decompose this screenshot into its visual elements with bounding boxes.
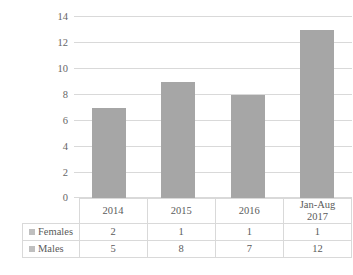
- column-chart-with-data-table: 14 12 10 8 6 4 2 0: [0, 0, 353, 275]
- legend-swatch-icon: [29, 246, 35, 252]
- table-row-categories: 2014 2015 2016 Jan-Aug 2017: [23, 199, 352, 224]
- cell-females-2014: 2: [79, 224, 147, 241]
- y-axis: 14 12 10 8 6 4 2 0: [38, 16, 68, 198]
- cell-males-2015: 8: [147, 241, 215, 258]
- bar-slot: [144, 16, 214, 198]
- table-corner-cell: [23, 199, 80, 224]
- y-tick-label: 8: [38, 89, 68, 100]
- table-row: Females 2 1 1 1: [23, 224, 352, 241]
- legend-item-females[interactable]: Females: [23, 224, 80, 241]
- data-table: 2014 2015 2016 Jan-Aug 2017 Females: [22, 198, 352, 258]
- category-header-jan-aug-2017: Jan-Aug 2017: [283, 199, 351, 224]
- category-label: 2015: [171, 205, 192, 216]
- category-header-2014: 2014: [79, 199, 147, 224]
- y-tick-label: 12: [38, 37, 68, 48]
- legend-label: Males: [38, 243, 64, 255]
- bar-slot: [283, 16, 353, 198]
- cell-males-2016: 7: [215, 241, 283, 258]
- cell-males-jan-aug-2017: 12: [283, 241, 351, 258]
- category-label-line2: 2017: [284, 211, 351, 223]
- bars-group: [74, 16, 352, 198]
- bar-total[interactable]: [300, 30, 334, 198]
- cell-females-2016: 1: [215, 224, 283, 241]
- y-tick-label: 2: [38, 167, 68, 178]
- y-tick-label: 4: [38, 141, 68, 152]
- category-header-2015: 2015: [147, 199, 215, 224]
- category-header-2016: 2016: [215, 199, 283, 224]
- cell-females-2015: 1: [147, 224, 215, 241]
- bar-total[interactable]: [161, 82, 195, 198]
- legend-label: Females: [38, 226, 73, 238]
- cell-females-jan-aug-2017: 1: [283, 224, 351, 241]
- cell-males-2014: 5: [79, 241, 147, 258]
- y-tick-label: 6: [38, 115, 68, 126]
- bar-total[interactable]: [231, 95, 265, 198]
- bar-slot: [213, 16, 283, 198]
- y-tick-label: 14: [38, 11, 68, 22]
- plot-area: 14 12 10 8 6 4 2 0: [0, 0, 353, 200]
- category-label: 2016: [239, 205, 260, 216]
- table-row: Males 5 8 7 12: [23, 241, 352, 258]
- bar-slot: [74, 16, 144, 198]
- legend-swatch-icon: [29, 229, 35, 235]
- bar-total[interactable]: [92, 108, 126, 199]
- y-tick-label: 10: [38, 63, 68, 74]
- legend-item-males[interactable]: Males: [23, 241, 80, 258]
- category-label: 2014: [103, 205, 124, 216]
- category-label-line1: Jan-Aug: [284, 199, 351, 211]
